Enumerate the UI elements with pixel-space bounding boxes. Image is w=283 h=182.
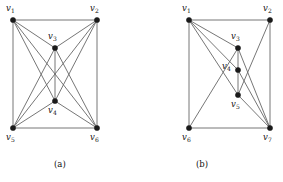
graph-vertex-v4	[235, 67, 240, 72]
vertex-label-subscript: 4	[227, 65, 231, 72]
vertex-label-panel-b-v1: v1	[182, 4, 191, 13]
vertex-label-subscript: 3	[53, 35, 57, 42]
graph-vertex-v2	[94, 17, 99, 22]
graph-vertex-v3	[52, 45, 57, 50]
vertex-label-panel-b-v7: v7	[263, 133, 272, 142]
vertex-label-subscript: 7	[268, 136, 272, 143]
vertex-label-subscript: 2	[268, 7, 272, 14]
caption-panel-b: (b)	[196, 159, 208, 169]
graph-canvas	[0, 0, 283, 182]
graph-vertex-v7	[267, 125, 272, 130]
vertex-label-panel-b-v3: v3	[231, 32, 240, 41]
vertex-label-panel-b-v6: v6	[182, 133, 191, 142]
vertex-label-subscript: 5	[236, 103, 240, 110]
vertex-label-subscript: 2	[95, 7, 99, 14]
graph-edge-v3-v7	[238, 48, 270, 128]
vertex-label-panel-b-v5: v5	[231, 100, 240, 109]
panel-b	[186, 17, 272, 130]
vertex-label-panel-a-v1: v1	[6, 4, 15, 13]
graph-figure: v1v2v3v4v5v6(a)v1v2v3v4v5v6v7(b)	[0, 0, 283, 182]
vertex-label-subscript: 4	[53, 109, 57, 116]
graph-vertex-v6	[186, 125, 191, 130]
graph-vertex-v1	[186, 17, 191, 22]
graph-vertex-v5	[235, 92, 240, 97]
vertex-label-subscript: 6	[187, 136, 191, 143]
graph-vertex-v2	[267, 17, 272, 22]
vertex-label-panel-a-v5: v5	[6, 133, 15, 142]
graph-edge-v2-v3	[55, 20, 97, 48]
graph-edge-v4-v6	[55, 101, 97, 128]
vertex-label-subscript: 3	[236, 35, 240, 42]
graph-vertex-v6	[94, 125, 99, 130]
graph-edge-v5-v7	[238, 95, 270, 128]
vertex-label-subscript: 1	[187, 7, 191, 14]
graph-vertex-v3	[235, 45, 240, 50]
graph-vertex-v1	[10, 17, 15, 22]
vertex-label-panel-b-v2: v2	[263, 4, 272, 13]
vertex-label-subscript: 5	[11, 136, 15, 143]
vertex-label-subscript: 6	[95, 136, 99, 143]
vertex-label-panel-a-v3: v3	[48, 32, 57, 41]
vertex-label-panel-a-v6: v6	[90, 133, 99, 142]
vertex-label-subscript: 1	[11, 7, 15, 14]
vertex-label-panel-a-v4: v4	[48, 106, 57, 115]
graph-edge-v4-v7	[238, 70, 270, 128]
vertex-label-panel-b-v4: v4	[222, 62, 231, 71]
caption-panel-a: (a)	[54, 159, 66, 169]
graph-vertex-v4	[52, 98, 57, 103]
graph-edge-v6-v3	[189, 48, 238, 128]
graph-vertex-v5	[10, 125, 15, 130]
graph-edge-v2-v5	[238, 20, 270, 95]
vertex-label-panel-a-v2: v2	[90, 4, 99, 13]
graph-edge-v1-v4	[189, 20, 238, 70]
